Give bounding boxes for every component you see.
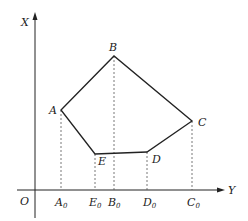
projection-label-e0: E0 xyxy=(88,196,102,210)
vertex-label-b: B xyxy=(108,41,117,54)
x-axis-arrow-icon xyxy=(33,12,38,20)
projection-label-a0: A0 xyxy=(54,196,68,210)
x-axis-label: X xyxy=(20,16,30,29)
projection-label-d0: D0 xyxy=(142,196,157,210)
projection-label-c0: C0 xyxy=(187,196,200,210)
projection-label-b0: B0 xyxy=(107,196,121,210)
vertex-label-d: D xyxy=(151,153,161,166)
pentagon-shape xyxy=(61,56,192,154)
vertex-label-e: E xyxy=(97,155,106,168)
vertex-label-c: C xyxy=(198,116,207,129)
projection-lines xyxy=(61,56,192,190)
pentagon-projection-diagram: X Y O A B C D E A0 E0 B0 D0 C0 xyxy=(0,0,248,221)
y-axis-arrow-icon xyxy=(217,188,225,193)
vertex-label-a: A xyxy=(48,104,57,117)
origin-label: O xyxy=(20,195,29,208)
y-axis-label: Y xyxy=(228,184,237,197)
